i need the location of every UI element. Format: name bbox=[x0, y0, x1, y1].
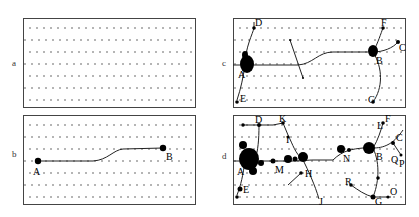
svg-text:A: A bbox=[33, 166, 41, 177]
panel-label-d: d bbox=[222, 151, 227, 161]
svg-text:E: E bbox=[243, 184, 249, 195]
svg-text:G: G bbox=[368, 94, 375, 105]
svg-text:M: M bbox=[275, 164, 284, 175]
svg-text:B: B bbox=[376, 151, 383, 162]
svg-text:E: E bbox=[240, 93, 246, 104]
svg-text:C: C bbox=[396, 132, 403, 143]
svg-text:B: B bbox=[376, 55, 383, 66]
node-A bbox=[35, 158, 41, 164]
panel-c: ABC DEFG bbox=[233, 18, 406, 108]
panel-b: A B bbox=[23, 115, 196, 205]
svg-text:H: H bbox=[305, 168, 312, 179]
svg-text:O: O bbox=[390, 186, 397, 197]
panel-a bbox=[23, 18, 196, 108]
svg-text:A: A bbox=[237, 166, 245, 177]
svg-text:F: F bbox=[385, 115, 391, 124]
svg-text:G: G bbox=[375, 196, 382, 205]
svg-text:P: P bbox=[399, 158, 405, 169]
panel-label-b: b bbox=[12, 149, 17, 159]
svg-text:D: D bbox=[255, 115, 262, 125]
panel-label-c: c bbox=[222, 58, 226, 68]
svg-text:L: L bbox=[377, 120, 383, 131]
svg-text:C: C bbox=[399, 42, 406, 53]
svg-text:N: N bbox=[343, 153, 350, 164]
panel-label-a: a bbox=[12, 58, 16, 68]
svg-text:J: J bbox=[319, 196, 323, 205]
svg-text:D: D bbox=[255, 18, 262, 28]
svg-text:K: K bbox=[279, 115, 287, 124]
svg-text:B: B bbox=[166, 151, 173, 162]
svg-text:F: F bbox=[381, 18, 387, 28]
svg-text:R: R bbox=[345, 176, 352, 187]
svg-text:I: I bbox=[286, 134, 289, 145]
svg-text:A: A bbox=[238, 69, 246, 80]
svg-text:Q: Q bbox=[391, 154, 399, 165]
panel-d: ABC DEF GHI JKL MNO PQR bbox=[233, 115, 406, 205]
